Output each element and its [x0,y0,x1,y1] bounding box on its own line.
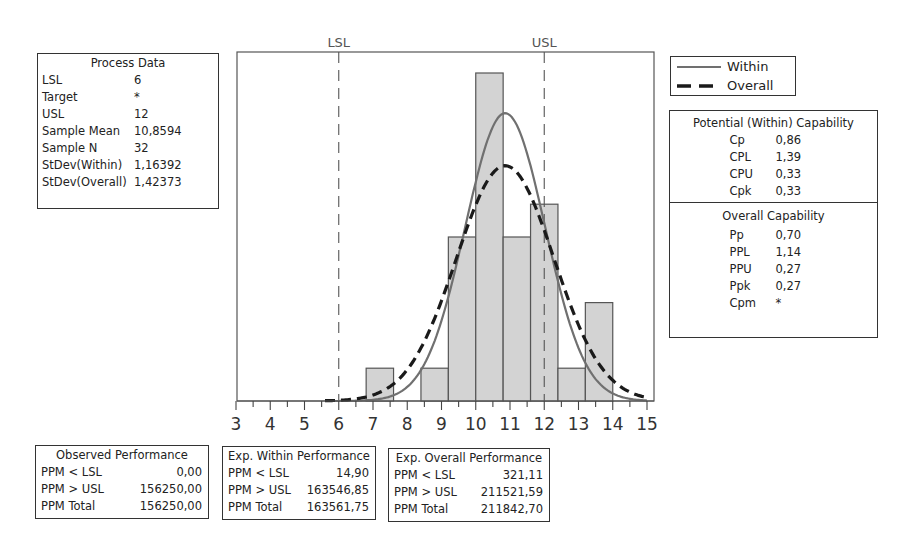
row-label: Cp [730,132,776,149]
observed-performance-row: PPM < LSL0,00 [36,464,208,481]
x-tick-label: 9 [436,414,447,434]
exp-within-performance-row: PPM < LSL14,90 [223,465,375,482]
histogram-bar [558,368,585,401]
usl-label: USL [532,35,558,50]
overall-capability-title: Overall Capability [670,207,877,225]
solid-line-icon [677,63,721,71]
overall-capability-row: Cpm* [670,295,877,312]
process-data-row: Sample Mean10,8594 [38,123,218,140]
potential-capability-row: CPL1,39 [670,149,877,166]
row-label: PPM Total [394,501,448,518]
row-value: * [134,89,218,106]
row-value: 211521,59 [481,484,543,501]
row-label: PPM Total [41,498,95,515]
row-value: 1,42373 [134,174,218,191]
row-value: 211842,70 [481,501,543,518]
row-value: 156250,00 [140,498,202,515]
row-label: Sample Mean [38,123,134,140]
potential-capability-row: Cp0,86 [670,132,877,149]
chart-legend: Within Overall [670,56,796,96]
observed-performance-row: PPM > USL156250,00 [36,481,208,498]
row-label: PPM Total [228,499,282,516]
exp-overall-performance-row: PPM Total211842,70 [389,501,549,518]
row-value: 1,14 [776,244,818,261]
x-axis-ticks: 3456789101112131415 [231,401,658,434]
process-data-row: StDev(Within)1,16392 [38,157,218,174]
x-tick-label: 4 [265,414,276,434]
row-value: 0,33 [776,183,818,200]
row-label: PPM > USL [394,484,457,501]
observed-performance-panel: Observed Performance PPM < LSL0,00PPM > … [35,445,209,519]
histogram-bar [448,237,475,401]
overall-capability-row: PPL1,14 [670,244,877,261]
process-data-row: StDev(Overall)1,42373 [38,174,218,191]
process-data-title: Process Data [38,54,218,72]
x-tick-label: 5 [299,414,310,434]
row-label: LSL [38,72,134,89]
process-data-row: Sample N32 [38,140,218,157]
observed-performance-row: PPM Total156250,00 [36,498,208,515]
potential-capability-row: CPU0,33 [670,166,877,183]
row-label: PPM < LSL [394,467,455,484]
exp-within-performance-panel: Exp. Within Performance PPM < LSL14,90PP… [222,446,376,520]
row-label: Cpm [730,295,776,312]
row-value: * [776,295,818,312]
capability-divider [670,202,877,203]
x-tick-label: 15 [636,414,658,434]
exp-overall-performance-title: Exp. Overall Performance [389,449,549,467]
overall-capability-row: Pp0,70 [670,227,877,244]
x-tick-label: 13 [568,414,590,434]
row-value: 0,27 [776,261,818,278]
exp-overall-performance-row: PPM > USL211521,59 [389,484,549,501]
lsl-label: LSL [327,35,350,50]
row-value: 156250,00 [140,481,202,498]
histogram-bar [421,368,448,401]
row-label: Pp [730,227,776,244]
x-tick-label: 7 [368,414,379,434]
histogram-bar [476,73,503,401]
row-value: 0,33 [776,166,818,183]
legend-item-overall: Overall [671,76,795,95]
row-value: 163561,75 [307,499,369,516]
row-value: 12 [134,106,218,123]
x-tick-label: 10 [465,414,487,434]
row-label: PPU [730,261,776,278]
row-label: Ppk [730,278,776,295]
x-tick-label: 8 [402,414,413,434]
observed-performance-title: Observed Performance [36,446,208,464]
x-tick-label: 6 [333,414,344,434]
row-value: 0,00 [176,464,202,481]
row-value: 1,16392 [134,157,218,174]
row-label: Sample N [38,140,134,157]
row-value: 14,90 [336,465,369,482]
row-label: StDev(Within) [38,157,134,174]
histogram-bar [503,237,530,401]
exp-overall-performance-panel: Exp. Overall Performance PPM < LSL321,11… [388,448,550,522]
row-label: USL [38,106,134,123]
x-tick-label: 14 [602,414,624,434]
potential-capability-row: Cpk0,33 [670,183,877,200]
row-value: 0,86 [776,132,818,149]
x-tick-label: 11 [499,414,521,434]
legend-item-within: Within [671,57,795,76]
row-label: CPL [730,149,776,166]
overall-capability-row: Ppk0,27 [670,278,877,295]
row-label: PPM > USL [228,482,291,499]
exp-within-performance-row: PPM > USL163546,85 [223,482,375,499]
row-value: 32 [134,140,218,157]
row-value: 321,11 [503,467,543,484]
capability-panel: Potential (Within) Capability Cp0,86CPL1… [669,110,878,338]
process-data-row: USL12 [38,106,218,123]
row-value: 0,70 [776,227,818,244]
potential-capability-title: Potential (Within) Capability [670,114,877,132]
row-value: 10,8594 [134,123,218,140]
row-value: 6 [134,72,218,89]
row-label: StDev(Overall) [38,174,134,191]
process-data-row: LSL6 [38,72,218,89]
row-label: PPM < LSL [41,464,102,481]
legend-overall-label: Overall [727,78,773,93]
row-value: 1,39 [776,149,818,166]
exp-within-performance-title: Exp. Within Performance [223,447,375,465]
row-value: 0,27 [776,278,818,295]
exp-overall-performance-row: PPM < LSL321,11 [389,467,549,484]
